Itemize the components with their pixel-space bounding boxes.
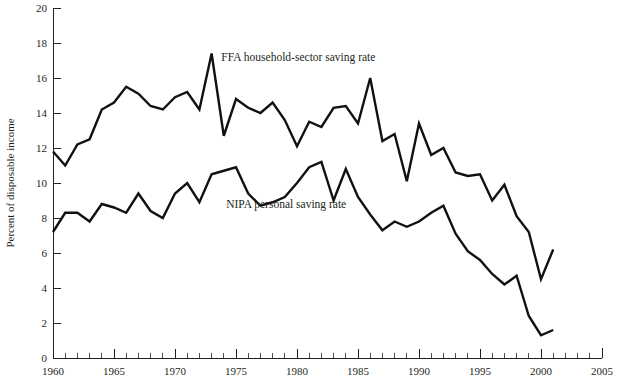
y-tick-label-14: 14 — [36, 107, 48, 119]
annotation-label-ffa: FFA household-sector saving rate — [221, 51, 375, 64]
x-tick-label-1960: 1960 — [42, 365, 65, 377]
x-tick-label-1995: 1995 — [469, 365, 492, 377]
series-line-nipa — [53, 162, 553, 335]
y-tick-label-0: 0 — [42, 352, 48, 364]
x-tick-label-1970: 1970 — [164, 365, 187, 377]
y-tick-label-16: 16 — [36, 72, 48, 84]
x-tick-label-2000: 2000 — [530, 365, 553, 377]
saving-rate-chart: 0246810121416182019601965197019751980198… — [0, 0, 622, 385]
data-series — [53, 54, 553, 336]
x-tick-label-1980: 1980 — [286, 365, 309, 377]
x-tick-label-1975: 1975 — [225, 365, 248, 377]
x-tick-label-2005: 2005 — [591, 365, 614, 377]
y-axis-title-label: Percent of disposable income — [4, 118, 16, 247]
y-tick-label-8: 8 — [42, 212, 48, 224]
y-tick-label-6: 6 — [42, 247, 48, 259]
y-tick-label-12: 12 — [36, 142, 47, 154]
y-tick-label-4: 4 — [42, 282, 48, 294]
x-tick-label-1985: 1985 — [347, 365, 370, 377]
y-axis-title: Percent of disposable income — [4, 118, 16, 247]
annotation-label-nipa: NIPA personal saving rate — [226, 198, 346, 211]
x-tick-label-1965: 1965 — [103, 365, 126, 377]
series-line-ffa — [53, 54, 553, 280]
y-tick-label-20: 20 — [36, 2, 48, 14]
y-tick-label-2: 2 — [42, 317, 48, 329]
y-tick-label-18: 18 — [36, 37, 48, 49]
x-tick-label-1990: 1990 — [408, 365, 431, 377]
chart-canvas: 0246810121416182019601965197019751980198… — [0, 0, 622, 385]
y-tick-label-10: 10 — [36, 177, 48, 189]
